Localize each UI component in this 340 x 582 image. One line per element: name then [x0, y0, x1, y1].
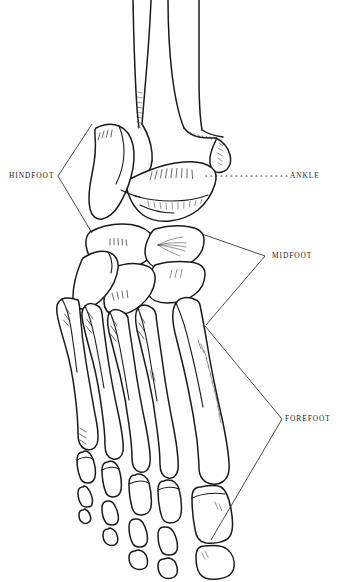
distal-phalanx-2-bone [158, 558, 177, 579]
proximal-phalanx-2-bone [158, 480, 181, 523]
middle-phalanx-3-bone [129, 519, 147, 547]
label-ankle: ANKLE [290, 172, 320, 179]
label-hindfoot: HINDFOOT [9, 172, 54, 179]
foot-skeleton-drawing [0, 0, 340, 582]
distal-phalanx-5-bone [79, 509, 91, 524]
hindfoot-leader-bracket [58, 124, 92, 233]
proximal-phalanx-3-bone [129, 474, 151, 515]
proximal-phalanx-4-bone [102, 461, 121, 497]
tibia-bone [168, 0, 231, 173]
middle-phalanx-2-bone [158, 527, 177, 555]
middle-phalanx-5-bone [78, 486, 92, 507]
label-forefoot: FOREFOOT [285, 415, 331, 422]
distal-phalanx-4-bone [103, 528, 118, 546]
label-midfoot: MIDFOOT [272, 252, 312, 259]
foot-anatomy-figure: HINDFOOT ANKLE MIDFOOT FOREFOOT [0, 0, 340, 582]
distal-phalanx-1-bone [196, 545, 234, 579]
proximal-phalanx-5-bone [77, 451, 95, 483]
metatarsal-1-bone [173, 298, 229, 485]
distal-phalanx-3-bone [129, 550, 148, 570]
middle-phalanx-4-bone [102, 501, 118, 525]
midfoot-leader-bracket [202, 234, 265, 325]
